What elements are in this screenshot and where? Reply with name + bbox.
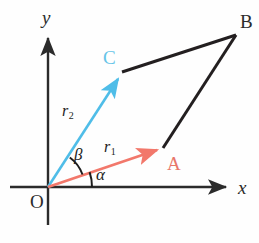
segment-a-to-b — [163, 35, 236, 148]
alpha-angle-label: α — [96, 166, 105, 183]
y-axis-label: y — [42, 8, 50, 27]
point-a-label: A — [167, 154, 181, 173]
origin-label: O — [30, 192, 44, 211]
r2-subscript: 2 — [69, 110, 74, 121]
vector-parallelogram-figure: y x O B A C α β r1 r2 — [0, 0, 259, 243]
beta-angle-label: β — [74, 146, 82, 163]
vector-r2-arrow — [48, 79, 118, 187]
x-axis-label: x — [238, 178, 246, 197]
r2-base: r — [62, 102, 68, 119]
r2-label: r2 — [62, 103, 73, 119]
point-b-label: B — [240, 12, 253, 31]
segment-c-to-b — [122, 35, 236, 72]
alpha-arc — [90, 172, 92, 187]
r1-base: r — [104, 138, 110, 155]
r1-subscript: 1 — [111, 146, 116, 157]
point-c-label: C — [103, 48, 116, 67]
r1-label: r1 — [104, 139, 115, 155]
